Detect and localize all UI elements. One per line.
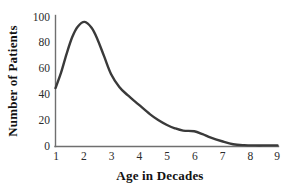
y-axis-title: Number of Patients xyxy=(5,25,20,137)
chart-container: 100 80 60 40 20 0 1 2 3 4 5 6 7 8 9 Age … xyxy=(0,0,289,192)
x-tick-label: 7 xyxy=(220,150,226,162)
y-tick-label: 100 xyxy=(33,11,51,23)
data-curve-number-of-patients xyxy=(56,22,278,146)
x-axis-title: Age in Decades xyxy=(116,168,203,183)
x-tick-label: 2 xyxy=(81,150,87,162)
y-tick-label: 40 xyxy=(39,88,51,100)
x-tick-label: 1 xyxy=(53,150,59,162)
x-tick-label: 4 xyxy=(136,150,142,162)
x-tick-label: 8 xyxy=(247,150,253,162)
y-tick-label: 0 xyxy=(44,140,50,152)
x-tick-label: 6 xyxy=(192,150,198,162)
y-tick-label: 80 xyxy=(39,36,51,48)
x-tick-label: 5 xyxy=(164,150,170,162)
x-tick-label: 3 xyxy=(109,150,115,162)
x-tick-labels: 1 2 3 4 5 6 7 8 9 xyxy=(53,150,280,162)
y-tick-labels: 100 80 60 40 20 0 xyxy=(33,11,51,152)
y-tick-label: 20 xyxy=(39,114,51,126)
y-tick-label: 60 xyxy=(39,62,51,74)
line-chart: 100 80 60 40 20 0 1 2 3 4 5 6 7 8 9 Age … xyxy=(0,0,289,192)
x-tick-label: 9 xyxy=(274,150,280,162)
chart-axes xyxy=(55,16,279,147)
